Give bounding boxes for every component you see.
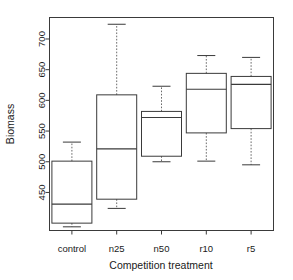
y-axis-tick-label: 500 <box>36 154 47 170</box>
x-axis-tick-label-n25: n25 <box>109 243 125 254</box>
box-n25 <box>97 24 137 208</box>
y-axis-tick-label: 700 <box>36 31 47 47</box>
box-iqr <box>97 95 137 199</box>
y-axis-tick-label: 550 <box>36 123 47 139</box>
y-axis-tick-label: 450 <box>36 185 47 201</box>
y-axis-tick-label: 650 <box>36 62 47 78</box>
x-axis-tick-label-r10: r10 <box>199 243 213 254</box>
plot-frame <box>50 18 274 231</box>
box-n50 <box>142 86 182 162</box>
x-axis-tick-label-n50: n50 <box>154 243 170 254</box>
box-r10 <box>186 56 226 162</box>
box-control <box>52 142 92 227</box>
x-axis-tick-label-r5: r5 <box>247 243 255 254</box>
box-iqr <box>52 161 92 223</box>
x-axis-tick-labels: controln25n50r10r5 <box>58 243 256 254</box>
x-axis-tick-label-control: control <box>58 243 87 254</box>
x-axis-ticks <box>72 231 251 235</box>
y-axis-tick-label: 600 <box>36 92 47 108</box>
y-axis-tick-labels: 450500550600650700 <box>36 31 47 200</box>
y-axis-title: Biomass <box>4 104 16 144</box>
boxplot-figure: 450500550600650700 controln25n50r10r5 Bi… <box>0 0 293 280</box>
box-series <box>52 24 271 227</box>
box-iqr <box>142 111 182 156</box>
boxplot-canvas: 450500550600650700 controln25n50r10r5 Bi… <box>0 0 293 280</box>
box-iqr <box>186 73 226 133</box>
x-axis-title: Competition treatment <box>109 259 212 271</box>
box-r5 <box>231 57 271 164</box>
